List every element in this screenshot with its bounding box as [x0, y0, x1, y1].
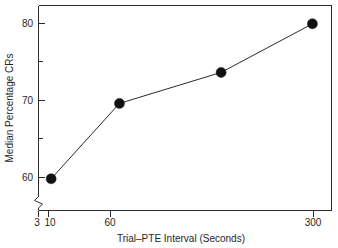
- y-tick-label-60: 60: [22, 172, 34, 183]
- y-axis-title: Median Percentage CRs: [4, 54, 15, 163]
- series-line: [51, 24, 312, 179]
- data-point: [307, 19, 317, 29]
- data-series-median-percentage-crs: [46, 19, 317, 184]
- series-markers: [46, 19, 317, 184]
- x-tick-label-10: 10: [44, 217, 56, 228]
- y-axis-break-icon: [35, 197, 43, 211]
- y-tick-label-70: 70: [22, 95, 34, 106]
- y-axis-tick-labels: 80 70 60: [22, 18, 34, 183]
- x-tick-label-3: 3: [34, 217, 40, 228]
- data-point: [114, 98, 124, 108]
- data-point: [46, 174, 56, 184]
- x-tick-label-300: 300: [305, 217, 322, 228]
- data-point: [216, 67, 226, 77]
- plot-frame: [39, 6, 332, 211]
- chart-figure: 80 70 60 3 10 60 300 Trial–PTE Interval …: [0, 0, 338, 248]
- y-tick-label-80: 80: [22, 18, 34, 29]
- line-chart: 80 70 60 3 10 60 300 Trial–PTE Interval …: [0, 0, 338, 248]
- x-tick-label-60: 60: [104, 217, 116, 228]
- y-axis-ticks: [39, 24, 45, 178]
- x-axis-tick-labels: 3 10 60 300: [34, 217, 322, 228]
- x-axis-title: Trial–PTE Interval (Seconds): [117, 233, 245, 244]
- x-axis-ticks: [39, 211, 314, 217]
